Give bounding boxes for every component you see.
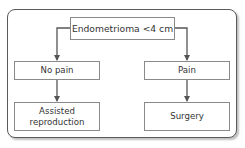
node-assisted-reproduction: Assisted reproduction: [14, 102, 100, 131]
node-endometrioma: Endometrioma <4 cm: [70, 17, 175, 40]
node-pain-label: Pain: [178, 65, 196, 76]
node-no-pain: No pain: [14, 61, 100, 80]
node-surgery: Surgery: [144, 102, 230, 131]
node-pain: Pain: [144, 61, 230, 80]
node-endometrioma-label: Endometrioma <4 cm: [72, 23, 173, 34]
node-no-pain-label: No pain: [41, 65, 74, 76]
node-surgery-label: Surgery: [170, 111, 204, 122]
node-assisted-reproduction-label: Assisted reproduction: [27, 106, 87, 128]
